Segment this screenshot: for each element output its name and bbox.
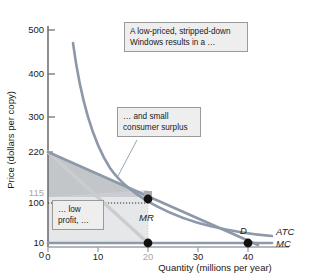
x-tick-label-40: 40 xyxy=(243,251,254,262)
x-tick-label-30: 30 xyxy=(193,251,204,262)
mc-curve-label: MC xyxy=(276,238,291,249)
y-axis-title: Price (dollars per copy) xyxy=(5,91,16,189)
y-tick-label-100: 100 xyxy=(28,197,44,208)
demand-curve-label: D xyxy=(240,225,247,236)
callout-leaders xyxy=(118,140,137,176)
mr-intersection-point xyxy=(144,239,153,248)
x-tick-label-10: 10 xyxy=(93,251,104,262)
atc-curve-label: ATC xyxy=(275,226,294,237)
low-price-callout: A low-priced, stripped-down Windows resu… xyxy=(124,22,248,52)
y-tick-label-10: 10 xyxy=(33,237,44,248)
y-tick-label-300: 300 xyxy=(28,111,44,122)
surplus-leader-line xyxy=(118,140,137,176)
y-tick-label-0: 0 xyxy=(39,249,44,260)
x-tick-label-20: 20 xyxy=(143,251,154,262)
y-tick-label-220: 220 xyxy=(28,146,44,157)
low-profit-callout: … low profit, … xyxy=(52,200,104,230)
chart-figure: 500 400 300 220 115 100 10 0 0 10 20 30 … xyxy=(0,0,311,273)
demand-quantity-point xyxy=(244,239,253,248)
mr-curve-label: MR xyxy=(139,212,154,223)
x-tick-label-0: 0 xyxy=(45,251,50,262)
consumer-surplus-callout: … and small consumer surplus xyxy=(117,107,201,137)
x-axis-title: Quantity (millions per year) xyxy=(158,262,272,273)
profit-maximizing-point xyxy=(144,195,153,204)
y-tick-label-500: 500 xyxy=(28,24,44,35)
y-tick-label-400: 400 xyxy=(28,68,44,79)
